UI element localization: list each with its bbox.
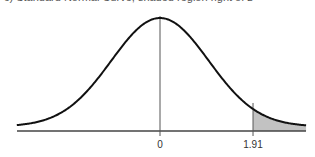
normal-curve — [17, 18, 306, 125]
normal-curve-chart: 0 1.91 — [0, 0, 315, 157]
tick-label-z: 1.91 — [243, 139, 263, 150]
tick-label-0: 0 — [157, 139, 163, 150]
